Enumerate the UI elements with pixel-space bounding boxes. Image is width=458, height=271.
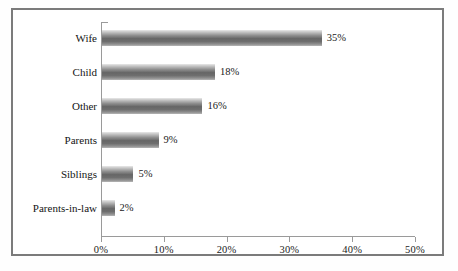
y-axis-top-tick [101,22,108,23]
chart-figure: 0%10%20%30%40%50% Wife35%Child18%Other16… [0,0,458,271]
bar-value-label: 35% [327,30,346,46]
bar-row: Child18% [13,64,446,80]
bar-value-label: 18% [220,64,239,80]
category-label: Parents-in-law [0,200,97,216]
bar-row: Siblings5% [13,166,446,182]
x-axis-tick [101,237,102,242]
bar [102,30,322,46]
category-label: Child [0,64,97,80]
bar-row: Other16% [13,98,446,114]
x-axis-tick-label: 40% [332,244,372,255]
bar-value-label: 5% [138,166,152,182]
x-axis-tick [227,237,228,242]
bar [102,64,215,80]
bar-row: Parents9% [13,132,446,148]
x-axis-tick-label: 0% [81,244,121,255]
bar-value-label: 2% [120,200,134,216]
bar-value-label: 16% [207,98,226,114]
category-label: Siblings [0,166,97,182]
bar [102,132,159,148]
category-label: Parents [0,132,97,148]
x-axis-tick-label: 10% [144,244,184,255]
x-axis-tick-label: 30% [269,244,309,255]
category-label: Other [0,98,97,114]
bar [102,200,115,216]
x-axis-tick-label: 50% [395,244,435,255]
x-axis-line [101,236,415,237]
x-axis-tick [352,237,353,242]
x-axis-tick-label: 20% [207,244,247,255]
bar-row: Wife35% [13,30,446,46]
bar-row: Parents-in-law2% [13,200,446,216]
plot-area: 0%10%20%30%40%50% Wife35%Child18%Other16… [13,10,446,258]
x-axis-tick [415,237,416,242]
x-axis-tick [289,237,290,242]
x-axis-tick [164,237,165,242]
bar [102,98,202,114]
bar-value-label: 9% [164,132,178,148]
bar [102,166,133,182]
chart-frame: 0%10%20%30%40%50% Wife35%Child18%Other16… [11,8,444,256]
category-label: Wife [0,30,97,46]
